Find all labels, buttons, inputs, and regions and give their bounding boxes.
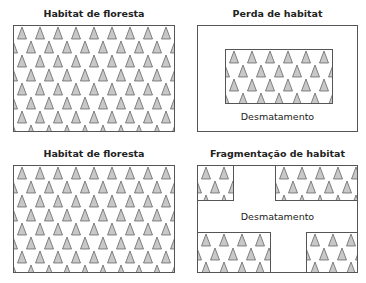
remaining-forest-patch <box>225 49 333 104</box>
deforestation-label: Desmatamento <box>198 211 357 222</box>
panel-title-habitat-loss: Perda de habitat <box>197 8 358 19</box>
tree-pattern <box>226 50 333 104</box>
fragmentation-outer-box: Desmatamento <box>197 165 358 273</box>
forest-fragment-bottom-right <box>306 232 358 273</box>
forest-habitat-box-top <box>13 25 175 132</box>
tree-pattern <box>14 26 175 132</box>
habitat-loss-outer-box: Desmatamento <box>197 25 358 132</box>
forest-fragment-bottom-left <box>197 232 271 273</box>
panel-title-fragmentation: Fragmentação de habitat <box>197 148 358 159</box>
deforestation-label: Desmatamento <box>198 111 357 122</box>
forest-habitat-box-bottom <box>13 165 175 273</box>
forest-fragment-top-right <box>275 165 358 201</box>
panel-title-forest-top: Habitat de floresta <box>13 8 175 19</box>
forest-fragment-top-left <box>197 165 234 201</box>
panel-title-forest-bottom: Habitat de floresta <box>13 148 175 159</box>
tree-pattern <box>14 166 175 273</box>
